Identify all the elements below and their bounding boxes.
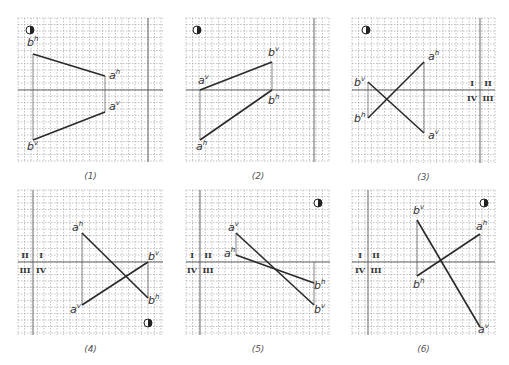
svg-text:III: III	[19, 265, 30, 275]
svg-text:I: I	[358, 250, 362, 260]
grid	[18, 190, 163, 335]
svg-text:IV: IV	[355, 265, 366, 275]
svg-text:II: II	[204, 250, 212, 260]
svg-text:III: III	[482, 93, 493, 103]
svg-text:I: I	[470, 78, 474, 88]
svg-text:IV: IV	[36, 265, 47, 275]
svg-text:II: II	[21, 250, 29, 260]
point-label-bh: bh	[148, 293, 159, 307]
segment-h-projection	[236, 255, 314, 283]
panel-caption: (5)	[252, 344, 265, 354]
panel-2: avbvahbh(2)	[186, 18, 330, 181]
panel-3: ahbhbvavIIIIVIII(3)	[352, 18, 495, 182]
point-label-bv: bv	[27, 139, 39, 153]
svg-text:IV: IV	[467, 93, 478, 103]
point-label-av: av	[70, 302, 82, 316]
svg-text:I: I	[39, 250, 43, 260]
grid	[352, 190, 495, 335]
segment-v-projection	[417, 220, 480, 327]
point-label-av: av	[428, 128, 440, 142]
panel-4: ahbhbvavIIIIIIIV(4)	[18, 190, 163, 354]
point-label-bv: bv	[148, 249, 160, 263]
point-label-av: av	[228, 220, 240, 234]
svg-text:III: III	[370, 265, 381, 275]
eye-icon	[314, 199, 322, 207]
svg-text:IV: IV	[187, 265, 198, 275]
panel-5: avbvahbhIIIIVIII(5)	[186, 190, 330, 354]
point-label-bv: bv	[314, 302, 326, 316]
eye-icon	[144, 319, 152, 327]
point-label-bv: bv	[413, 203, 425, 217]
point-label-av: av	[478, 322, 490, 336]
panel-caption: (1)	[84, 171, 97, 181]
point-label-ah: ah	[109, 68, 120, 82]
point-label-ah: ah	[428, 49, 439, 63]
segment-h-projection	[417, 234, 480, 276]
panel-caption: (2)	[252, 171, 265, 181]
eye-icon	[362, 26, 370, 34]
point-label-bv: bv	[268, 45, 280, 59]
segment-h-projection	[82, 233, 148, 298]
point-label-ah: ah	[72, 220, 83, 234]
eye-icon	[193, 26, 201, 34]
segment-v-projection	[82, 262, 148, 305]
svg-text:I: I	[190, 250, 194, 260]
point-label-av: av	[109, 99, 121, 113]
projection-diagram: bhahbvav(1)avbvahbh(2)ahbhbvavIIIIVIII(3…	[0, 0, 509, 365]
svg-text:II: II	[372, 250, 380, 260]
eye-icon	[26, 26, 34, 34]
panel-1: bhahbvav(1)	[18, 18, 163, 181]
point-label-bh: bh	[354, 111, 365, 125]
eye-icon	[480, 199, 488, 207]
svg-text:III: III	[202, 265, 213, 275]
point-label-bh: bh	[413, 277, 424, 291]
point-label-bh: bh	[314, 278, 325, 292]
point-label-bv: bv	[354, 75, 366, 89]
point-label-bh: bh	[27, 35, 38, 49]
panel-caption: (3)	[417, 172, 430, 182]
svg-text:II: II	[484, 78, 492, 88]
grid	[352, 18, 495, 163]
point-label-bh: bh	[268, 93, 279, 107]
point-label-av: av	[198, 73, 210, 87]
segment-v-projection	[200, 62, 272, 90]
panel-6: bvavahbhIIIIVIII(6)	[352, 190, 495, 354]
segment-h-projection	[200, 90, 272, 140]
point-label-ah: ah	[476, 219, 487, 233]
panel-caption: (6)	[417, 344, 430, 354]
point-label-ah: ah	[224, 246, 235, 260]
panel-caption: (4)	[84, 344, 97, 354]
